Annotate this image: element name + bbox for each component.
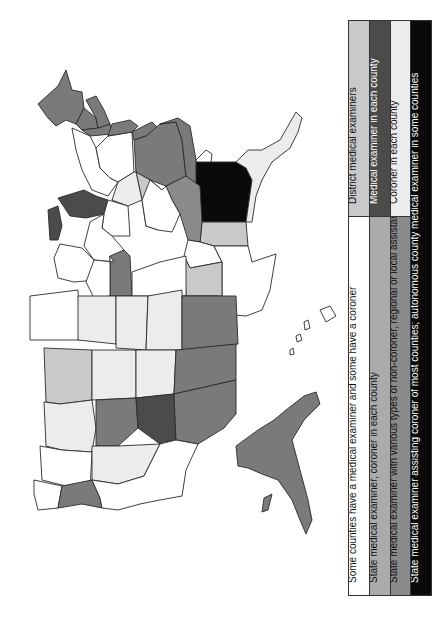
state-georgia [196, 162, 252, 222]
legend-item: State medical examiner, coroner in each … [370, 216, 390, 595]
state-oklahoma [146, 290, 182, 350]
legend-item-label: Medical examiner in each county [370, 58, 380, 204]
hawaii-island-4 [290, 348, 294, 355]
legend-item: District medical examiners [349, 21, 369, 216]
state-oklahoma-east [132, 256, 186, 296]
legend-item: State medical examiner with various type… [391, 216, 411, 595]
state-wyoming [96, 398, 138, 446]
hawaii-island-1 [320, 306, 336, 322]
legend-item-label: State medical examiner with various type… [391, 216, 401, 583]
legend-item: State medical examiner assisting coroner… [411, 21, 431, 595]
state-michigan-upper [48, 206, 62, 240]
legend-column: Medical examiner in each countyState med… [370, 21, 391, 595]
state-texas [182, 296, 238, 350]
legend-item-label: State medical examiner, coroner in each … [370, 372, 380, 583]
state-alaska [236, 392, 320, 534]
state-nebraska [78, 296, 116, 344]
legend-item-label: District medical examiners [349, 87, 359, 204]
state-colorado [136, 350, 176, 398]
legend-item: Coroner in each county [391, 21, 411, 216]
state-kansas [116, 296, 148, 350]
state-michigan [58, 190, 108, 218]
legend-item-label: Some counties have a medical examiner an… [349, 287, 359, 583]
state-indiana [102, 200, 130, 236]
legend: District medical examinersSome counties … [348, 20, 432, 596]
legend-item-label: Coroner in each county [391, 100, 401, 203]
legend-item: Medical examiner in each county [370, 21, 390, 216]
state-north-dakota [44, 348, 92, 404]
state-south-dakota [92, 350, 136, 400]
state-washington [34, 480, 62, 510]
hawaii-island-3 [296, 334, 302, 342]
state-iowa [110, 250, 132, 296]
legend-item-label: State medical examiner assisting coroner… [411, 73, 421, 583]
legend-column: State medical examiner assisting coroner… [411, 21, 431, 595]
state-alabama [200, 222, 248, 246]
state-montana [44, 400, 96, 452]
state-utah [136, 394, 176, 444]
legend-column: Coroner in each countyState medical exam… [391, 21, 412, 595]
alaska-island [262, 494, 272, 512]
legend-column: District medical examinersSome counties … [349, 21, 370, 595]
state-maine [38, 70, 84, 126]
legend-item: Some counties have a medical examiner an… [349, 216, 369, 595]
state-minnesota [30, 290, 80, 340]
hawaii-island-2 [304, 320, 310, 330]
